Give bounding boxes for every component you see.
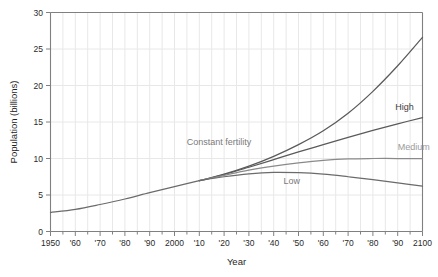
x-tick-label: '70 [95,238,106,248]
x-tick-label: '60 [70,238,81,248]
x-tick-label: '90 [392,238,403,248]
annotation-constant-fertility: Constant fertility [187,137,252,147]
chart-canvas: 1950'60'70'80'902000'10'20'30'40'50'60'7… [0,0,438,277]
x-axis-title: Year [227,256,246,267]
x-tick-label: '50 [293,238,304,248]
y-tick-label: 0 [38,227,43,237]
y-tick-label: 25 [34,44,44,54]
x-tick-label: '80 [367,238,378,248]
y-tick-label: 10 [34,154,44,164]
x-tick-label: 1950 [41,238,60,248]
x-tick-label: '80 [119,238,130,248]
annotation-medium: Medium [398,142,430,152]
x-tick-label: '40 [268,238,279,248]
y-tick-label: 15 [34,117,44,127]
annotation-high: High [395,102,414,112]
x-tick-label: '10 [194,238,205,248]
x-tick-label: '70 [343,238,354,248]
y-axis-title: Population (billions) [8,81,19,164]
y-tick-label: 5 [38,190,43,200]
x-tick-label: '90 [144,238,155,248]
x-tick-label: '20 [219,238,230,248]
y-tick-label: 20 [34,81,44,91]
y-tick-label: 30 [34,8,44,18]
annotation-low: Low [284,176,301,186]
x-tick-label: 2000 [165,238,184,248]
x-tick-label: 2100 [413,238,432,248]
population-projection-chart: 1950'60'70'80'902000'10'20'30'40'50'60'7… [0,0,438,277]
x-tick-label: '30 [243,238,254,248]
x-tick-label: '60 [318,238,329,248]
